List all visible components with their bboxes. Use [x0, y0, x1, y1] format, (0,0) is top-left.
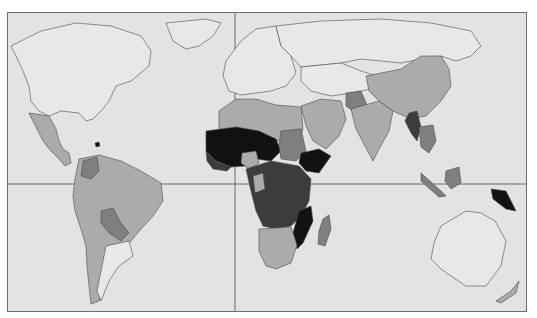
region-north-america — [11, 23, 151, 121]
region-new-zealand — [496, 281, 519, 303]
world-map — [8, 13, 527, 312]
region-middle-east — [301, 99, 346, 149]
region-madagascar — [318, 215, 331, 246]
region-central-asia — [301, 63, 376, 96]
region-mexico-central-america — [29, 113, 71, 166]
region-greenland — [166, 19, 221, 49]
region-gabon-congo — [253, 173, 265, 193]
region-russia — [276, 19, 481, 67]
region-southeast-asia — [419, 125, 436, 153]
region-south-asia — [351, 101, 393, 161]
region-southern-africa — [259, 227, 297, 269]
region-borneo — [445, 167, 461, 189]
region-australia — [431, 211, 506, 286]
region-ethiopia — [299, 149, 331, 173]
map-frame — [7, 12, 527, 312]
region-haiti — [95, 142, 100, 147]
region-papua-new-guinea — [491, 189, 516, 211]
region-indonesia — [421, 173, 446, 197]
